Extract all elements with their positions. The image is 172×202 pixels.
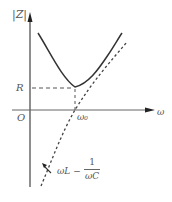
reactance-pointer-arrow-icon [42, 163, 47, 168]
fraction-bar [84, 169, 100, 170]
fraction-numerator: 1 [89, 158, 95, 167]
x-axis-label: ω [157, 108, 164, 117]
fraction-denominator: ωC [85, 172, 99, 181]
y-axis-arrow-icon [28, 12, 33, 22]
origin-label: O [17, 113, 25, 123]
resistance-label: R [16, 83, 24, 93]
y-axis-label: |Z| [12, 9, 27, 20]
impedance-curve [38, 33, 122, 87]
resonance-frequency-label: ω₀ [77, 113, 88, 122]
reactance-fraction: 1 ωC [84, 158, 100, 181]
reactance-label-prefix: ωL − [57, 167, 81, 176]
x-axis-arrow-icon [145, 108, 155, 113]
